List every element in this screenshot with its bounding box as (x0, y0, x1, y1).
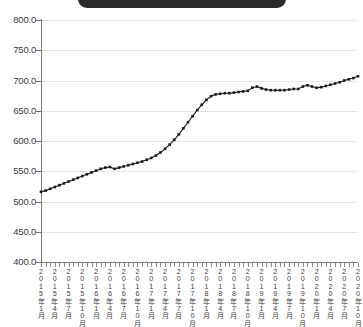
x-axis-tick (156, 263, 157, 267)
data-point (297, 88, 300, 91)
data-point (113, 168, 116, 171)
data-point (283, 89, 286, 92)
gridline (41, 111, 358, 112)
data-point (178, 133, 181, 136)
x-axis-label: 2016年4月 (105, 268, 114, 320)
data-point (302, 85, 305, 88)
x-axis-tick (101, 263, 102, 267)
y-axis-label: 700.0 (0, 75, 36, 86)
x-axis-label: 2017年4月 (161, 268, 170, 320)
x-axis-tick (216, 263, 217, 267)
x-axis-tick (271, 263, 272, 267)
data-point (109, 166, 112, 169)
x-axis-tick (307, 263, 308, 267)
x-axis-label: 2019年10月 (298, 268, 307, 327)
x-axis-tick (321, 263, 322, 267)
x-axis-label: 2020年7月 (340, 268, 349, 320)
x-axis-tick (202, 263, 203, 267)
data-point (44, 189, 47, 192)
data-point (320, 86, 323, 89)
data-point (76, 177, 79, 180)
data-point (58, 184, 61, 187)
data-point (269, 89, 272, 92)
y-axis-label: 450.0 (0, 226, 36, 237)
gridline (41, 171, 358, 172)
y-axis-label: 500.0 (0, 196, 36, 207)
x-axis-tick (197, 263, 198, 267)
x-axis-label: 2018年4月 (216, 268, 225, 320)
data-point (279, 89, 282, 92)
data-point (292, 88, 295, 91)
x-axis-tick (119, 263, 120, 267)
x-axis-tick (353, 263, 354, 267)
gridline (41, 50, 358, 51)
x-axis-tick (50, 263, 51, 267)
x-axis-label: 2020年1月 (312, 268, 321, 320)
data-point (187, 121, 190, 124)
x-axis-tick (335, 263, 336, 267)
x-axis-label: 2018年1月 (202, 268, 211, 320)
x-axis-tick (64, 263, 65, 267)
y-axis-label: 750.0 (0, 44, 36, 55)
x-axis-tick (225, 263, 226, 267)
x-axis-label: 2018年7月 (229, 268, 238, 320)
x-axis-tick (160, 263, 161, 267)
data-point (168, 143, 171, 146)
gridline (41, 202, 358, 203)
x-axis-label: 2019年7月 (285, 268, 294, 320)
x-axis-tick (78, 263, 79, 267)
line-chart: 800.0750.0700.0650.0600.0550.0500.0450.0… (0, 0, 363, 327)
x-axis-tick (294, 263, 295, 267)
x-axis-tick (257, 263, 258, 267)
data-point (311, 85, 314, 88)
x-axis-label: 2015年10月 (78, 268, 87, 327)
x-axis-tick (243, 263, 244, 267)
y-axis-label: 600.0 (0, 135, 36, 146)
data-point (352, 77, 355, 80)
x-axis-label: 2015年1月 (37, 268, 46, 320)
x-axis-tick (284, 263, 285, 267)
data-point (210, 95, 213, 98)
x-axis-tick (73, 263, 74, 267)
x-axis-tick (326, 263, 327, 267)
x-axis-tick (211, 263, 212, 267)
y-axis-label: 400.0 (0, 256, 36, 267)
data-point (53, 186, 56, 189)
x-axis-tick (174, 263, 175, 267)
gridline (41, 81, 358, 82)
data-point (288, 88, 291, 91)
data-point (315, 86, 318, 89)
data-point (260, 87, 263, 90)
x-axis-tick (266, 263, 267, 267)
data-point (201, 103, 204, 106)
data-point (265, 88, 268, 91)
y-axis-label: 550.0 (0, 165, 36, 176)
data-point (214, 93, 217, 96)
x-axis-label: 2020年4月 (326, 268, 335, 320)
data-point (127, 164, 130, 167)
x-axis-label: 2016年10月 (133, 268, 142, 327)
series-markers (40, 75, 360, 193)
x-axis-tick (92, 263, 93, 267)
x-axis-label: 2019年4月 (271, 268, 280, 320)
x-axis-label: 2016年7月 (119, 268, 128, 320)
x-axis-label: 2015年4月 (50, 268, 59, 320)
data-point (122, 165, 125, 168)
data-point (246, 89, 249, 92)
gridline (41, 141, 358, 142)
x-axis-label: 2017年10月 (188, 268, 197, 327)
data-point (274, 89, 277, 92)
x-axis-tick (349, 263, 350, 267)
data-point (325, 85, 328, 88)
x-axis-label: 2016年1月 (92, 268, 101, 320)
x-axis-tick (59, 263, 60, 267)
x-axis-label: 2019年1月 (257, 268, 266, 320)
x-axis-label: 2017年7月 (174, 268, 183, 320)
gridline (41, 232, 358, 233)
data-point (132, 163, 135, 166)
gridline (41, 20, 358, 21)
data-point (150, 157, 153, 160)
data-point (182, 127, 185, 130)
x-axis-tick (142, 263, 143, 267)
x-axis-tick (128, 263, 129, 267)
